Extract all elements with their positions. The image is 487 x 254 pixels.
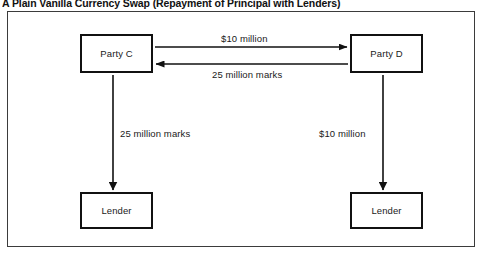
node-party-d: Party D xyxy=(350,34,423,73)
page-title: A Plain Vanilla Currency Swap (Repayment… xyxy=(2,0,482,10)
node-party-d-label: Party D xyxy=(370,48,402,59)
edge-label-left-down: 25 million marks xyxy=(120,128,190,140)
node-lender-right-label: Lender xyxy=(371,205,401,216)
node-lender-left: Lender xyxy=(80,192,153,229)
figure-canvas: A Plain Vanilla Currency Swap (Repayment… xyxy=(0,0,487,254)
node-party-c-label: Party C xyxy=(100,48,132,59)
node-lender-right: Lender xyxy=(350,192,423,229)
node-party-c: Party C xyxy=(80,34,153,73)
node-lender-left-label: Lender xyxy=(101,205,131,216)
edge-label-return-flow: 25 million marks xyxy=(212,69,282,81)
edge-label-top-flow: $10 million xyxy=(221,33,268,45)
edge-label-right-down: $10 million xyxy=(319,128,366,140)
